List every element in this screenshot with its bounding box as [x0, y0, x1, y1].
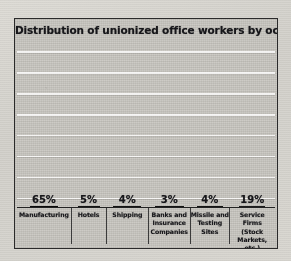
- bar-column: 5%: [71, 41, 107, 208]
- bar-value-label: 4%: [119, 195, 136, 205]
- category-label: Service Firms(Stock Markets,etc.): [229, 208, 275, 248]
- chart-figure: Distribution of unionized office workers…: [14, 18, 278, 249]
- bar-value-label: 4%: [201, 195, 218, 205]
- bar-column: 19%: [229, 41, 275, 208]
- category-label: Hotels: [71, 208, 107, 248]
- bar-column: 4%: [106, 41, 148, 208]
- category-label-text: Service Firms(Stock Markets,etc.): [229, 211, 275, 249]
- category-label: Manufacturing: [17, 208, 71, 248]
- category-label-text: Missile andTestingSites: [191, 211, 229, 236]
- bar-value-label: 19%: [240, 195, 264, 205]
- category-label: Shipping: [106, 208, 148, 248]
- bar-column: 4%: [190, 41, 229, 208]
- category-label-band: ManufacturingHotelsShippingBanks andInsu…: [17, 208, 275, 248]
- category-label-text: Hotels: [78, 211, 100, 219]
- bar-series: 65%5%4%3%4%19%: [17, 41, 275, 208]
- bar-column: 65%: [17, 41, 71, 208]
- category-label-text: Manufacturing: [19, 211, 69, 219]
- category-label: Missile andTestingSites: [190, 208, 229, 248]
- chart-title: Distribution of unionized office workers…: [15, 24, 277, 36]
- bar-value-label: 3%: [161, 195, 178, 205]
- scanned-page-background: Distribution of unionized office workers…: [0, 0, 291, 261]
- bar-column: 3%: [148, 41, 190, 208]
- category-label-text: Banks andInsuranceCompanies: [151, 211, 188, 236]
- category-label-text: Shipping: [112, 211, 142, 219]
- bar-value-label: 5%: [80, 195, 97, 205]
- plot-area: 65%5%4%3%4%19%: [17, 41, 275, 208]
- bar-value-label: 65%: [32, 195, 56, 205]
- category-label: Banks andInsuranceCompanies: [148, 208, 190, 248]
